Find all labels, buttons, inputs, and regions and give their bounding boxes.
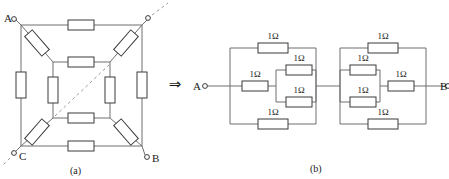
resistor-body-left-bottom: [258, 119, 288, 129]
equiv-terminal-label-b: B: [440, 80, 447, 92]
label-left-series: 1Ω: [249, 69, 261, 79]
resistor-body-left-top: [258, 43, 288, 53]
resistor-body-right-par-upper: [350, 65, 376, 75]
label-right-series: 1Ω: [395, 69, 407, 79]
resistor-body-right-bottom: [368, 119, 398, 129]
resistor-body: [25, 30, 50, 56]
resistor-body: [114, 30, 139, 56]
resistor-body-left-par-lower: [286, 97, 312, 107]
caption-a: (a): [70, 165, 81, 177]
label-left-top: 1Ω: [267, 31, 279, 41]
resistor-body-right-top: [368, 43, 398, 53]
label-left-par-upper: 1Ω: [293, 53, 305, 63]
resistor-body: [68, 57, 94, 67]
terminal-node-b[interactable]: [145, 155, 150, 160]
equiv-terminal-label-a: A: [193, 80, 201, 92]
resistor-body: [114, 119, 139, 145]
terminal-label-a: A: [4, 12, 12, 24]
cube-resistors: [16, 20, 147, 151]
label-right-bottom: 1Ω: [377, 107, 389, 117]
label-right-top: 1Ω: [377, 31, 389, 41]
terminal-node-c[interactable]: [12, 151, 17, 156]
resistor-body: [16, 72, 26, 98]
resistor-body: [48, 77, 58, 103]
terminal-label-b: B: [152, 152, 159, 164]
terminal-node-a[interactable]: [12, 17, 17, 22]
resistor-body: [105, 77, 115, 103]
terminal-node-d[interactable]: [146, 16, 151, 21]
equivalent-circuit-diagram: 1Ω 1Ω 1Ω 1Ω 1Ω 1Ω 1Ω 1Ω 1Ω 1Ω A (b): [180, 0, 449, 179]
resistor-body: [68, 113, 94, 123]
resistor-body: [25, 119, 50, 145]
equiv-terminal-node-a[interactable]: [203, 84, 208, 89]
resistor-body-left-par-upper: [286, 65, 312, 75]
resistor-body: [137, 72, 147, 98]
label-left-bottom: 1Ω: [267, 107, 279, 117]
caption-b: (b): [310, 163, 322, 175]
figure-canvas: A C B (a) ⇒: [0, 0, 449, 179]
resistor-body-right-par-lower: [350, 97, 376, 107]
resistor-body-right-series: [388, 81, 414, 91]
resistor-body: [68, 20, 94, 30]
resistor-body-left-series: [242, 81, 268, 91]
label-right-par-upper: 1Ω: [357, 53, 369, 63]
resistor-body: [68, 141, 94, 151]
terminal-label-c: C: [19, 150, 26, 162]
label-left-par-lower: 1Ω: [293, 85, 305, 95]
label-right-par-lower: 1Ω: [357, 85, 369, 95]
cube-circuit-diagram: A C B (a): [0, 0, 180, 179]
